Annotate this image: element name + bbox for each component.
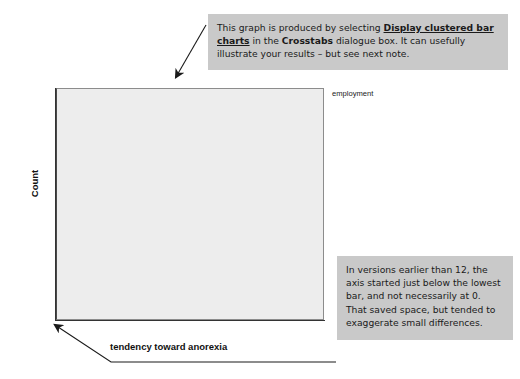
figure-root: This graph is produced by selecting Disp… <box>0 0 520 379</box>
y-axis-line <box>55 88 56 321</box>
annotation-note-top: This graph is produced by selecting Disp… <box>208 14 508 70</box>
note-bottom-text: In versions earlier than 12, the axis st… <box>346 264 501 328</box>
legend-title: employment <box>329 89 399 98</box>
note-top-seg-0: This graph is produced by selecting <box>217 22 384 33</box>
y-axis-title: Count <box>29 144 40 224</box>
bars-container <box>57 89 323 319</box>
note-top-text: This graph is produced by selecting Disp… <box>217 22 494 59</box>
x-axis-line <box>55 320 325 321</box>
annotation-note-bottom: In versions earlier than 12, the axis st… <box>337 256 513 340</box>
legend: employment <box>329 89 399 102</box>
note-top-seg-3: Crosstabs <box>282 35 333 46</box>
note-top-seg-2: in the <box>250 35 282 46</box>
x-axis-title: tendency toward anorexia <box>110 341 227 352</box>
chart-plot-area <box>56 88 324 320</box>
